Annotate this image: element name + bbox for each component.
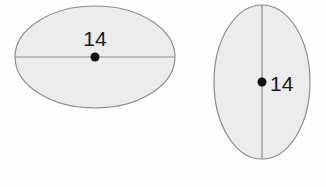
vertical-ellipse-label: 14 [270,72,294,95]
ellipse-diagram: 14 14 [0,0,326,187]
horizontal-ellipse-group: 14 [15,6,175,108]
horizontal-ellipse-center-dot [91,53,100,62]
vertical-ellipse-group: 14 [214,5,310,159]
horizontal-ellipse-label: 14 [83,27,107,50]
vertical-ellipse-center-dot [258,78,267,87]
figure-canvas: 14 14 [0,0,326,187]
